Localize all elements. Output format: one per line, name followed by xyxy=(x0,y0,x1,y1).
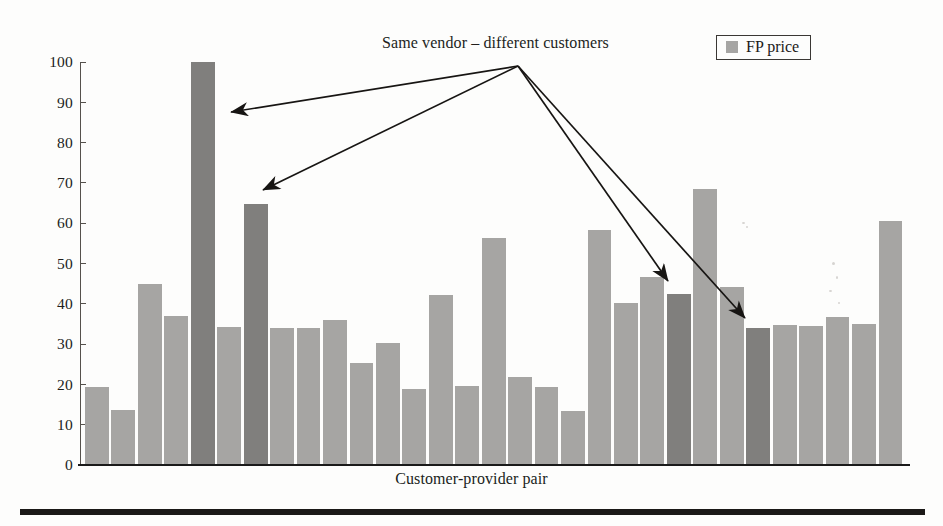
y-axis-tick-label: 40 xyxy=(57,296,80,312)
figure-container: 0102030405060708090100 FP price Same ven… xyxy=(0,0,943,526)
bar xyxy=(191,62,215,465)
x-axis-spine xyxy=(78,464,910,466)
y-axis-tick-label: 30 xyxy=(57,336,80,352)
bar xyxy=(614,303,638,465)
bar xyxy=(508,377,532,465)
y-axis-spine xyxy=(80,62,81,465)
bar xyxy=(588,230,612,465)
bar xyxy=(429,295,453,465)
scan-speckle xyxy=(838,302,840,304)
bar xyxy=(640,277,664,465)
y-axis-tick-label: 100 xyxy=(49,54,80,70)
annotation-label: Same vendor – different customers xyxy=(382,34,609,52)
bar xyxy=(746,328,770,465)
x-axis-title: Customer-provider pair xyxy=(0,470,943,488)
bar xyxy=(693,189,717,465)
y-axis-tick-label: 50 xyxy=(57,256,80,272)
bar xyxy=(720,287,744,465)
plot-area xyxy=(85,62,905,465)
bar xyxy=(879,221,903,465)
bar xyxy=(561,411,585,465)
scan-speckle xyxy=(742,222,745,224)
y-axis: 0102030405060708090100 xyxy=(0,0,86,526)
scan-speckle xyxy=(832,262,835,265)
bar xyxy=(852,324,876,465)
bar xyxy=(270,328,294,465)
bar xyxy=(773,325,797,465)
legend-label: FP price xyxy=(746,39,799,55)
bar xyxy=(799,326,823,465)
bar xyxy=(535,387,559,465)
bar xyxy=(164,316,188,465)
scan-speckle xyxy=(746,226,748,228)
y-axis-tick-label: 20 xyxy=(57,377,80,393)
bar xyxy=(826,317,850,465)
bar xyxy=(138,284,162,465)
bar xyxy=(667,294,691,465)
bar xyxy=(350,363,374,465)
y-axis-tick-label: 90 xyxy=(57,95,80,111)
bar xyxy=(85,387,109,465)
bar xyxy=(217,327,241,465)
bar xyxy=(376,343,400,465)
y-axis-tick-label: 60 xyxy=(57,215,80,231)
y-axis-tick-label: 70 xyxy=(57,175,80,191)
legend-swatch-icon xyxy=(726,41,738,53)
bar xyxy=(482,238,506,465)
y-axis-tick-label: 10 xyxy=(57,417,80,433)
legend: FP price xyxy=(716,35,811,60)
page-divider xyxy=(20,509,925,515)
scan-speckle xyxy=(836,276,838,279)
bar xyxy=(323,320,347,465)
scan-speckle xyxy=(829,290,832,292)
bar xyxy=(455,386,479,465)
y-axis-tick-label: 80 xyxy=(57,135,80,151)
bar xyxy=(297,328,321,465)
bar xyxy=(402,389,426,465)
bar xyxy=(244,204,268,465)
bar xyxy=(111,410,135,465)
